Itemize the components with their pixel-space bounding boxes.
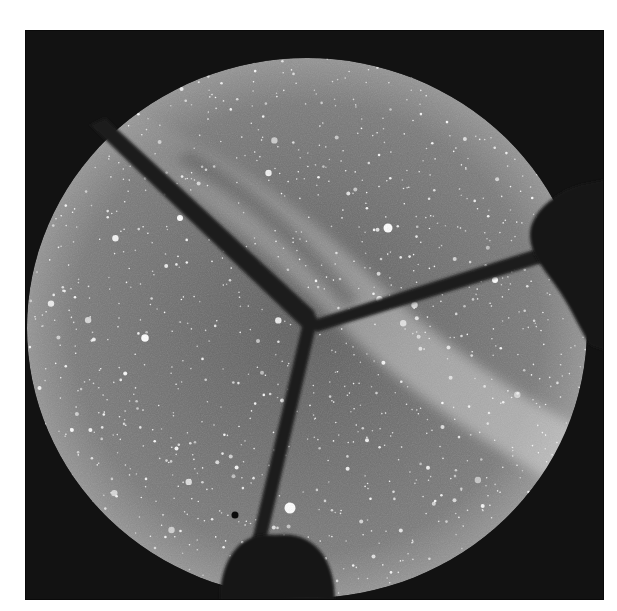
central-hub — [299, 311, 317, 329]
sky-photograph — [25, 30, 604, 600]
all-sky-image — [25, 30, 604, 600]
